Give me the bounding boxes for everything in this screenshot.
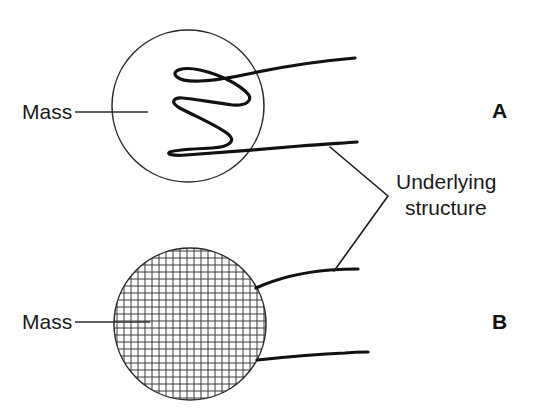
underlying-structure-label-line1: Underlying [396,170,496,193]
panel-b-crosshatch-grid [114,248,266,400]
underlying-structure-label-line2: structure [405,196,487,219]
panel-label-b: B [492,310,507,333]
panel-a-serpentine-strand [169,58,357,155]
mass-label-bottom: Mass [22,310,72,333]
panel-b-upper-strand [256,269,358,288]
panel-b-group [75,248,368,400]
panel-a-group [75,30,357,182]
diagram-canvas: Mass Mass Underlying structure A B [0,0,537,415]
bracket-chevron [330,147,388,271]
panel-label-a: A [492,99,507,122]
underlying-structure-bracket [330,147,388,271]
figure-root: Mass Mass Underlying structure A B [0,0,537,415]
panel-b-lower-strand [257,352,368,360]
mass-label-top: Mass [22,100,72,123]
